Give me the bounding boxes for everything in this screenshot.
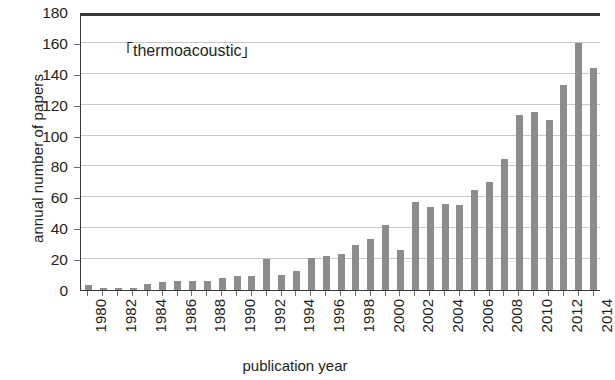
x-tick-mark xyxy=(593,291,594,296)
bar xyxy=(174,281,181,290)
x-tick-mark xyxy=(444,291,445,296)
bar xyxy=(531,112,538,290)
x-tick-mark xyxy=(489,291,490,296)
x-tick-mark xyxy=(206,291,207,296)
x-tick-mark xyxy=(295,291,296,296)
bar xyxy=(575,43,582,290)
bar xyxy=(456,205,463,290)
y-tick-label: 160 xyxy=(42,36,68,52)
x-tick-label: 1986 xyxy=(183,299,198,332)
bar xyxy=(442,204,449,290)
x-tick-mark xyxy=(325,291,326,296)
x-tick-label: 2002 xyxy=(420,299,435,332)
x-tick-mark xyxy=(162,291,163,296)
x-tick-label: 2008 xyxy=(509,299,524,332)
bar xyxy=(204,281,211,290)
x-tick-mark xyxy=(370,291,371,296)
x-tick-mark xyxy=(518,291,519,296)
y-tick-label: 140 xyxy=(42,67,68,83)
y-tick-label: 120 xyxy=(42,98,68,114)
bar xyxy=(427,207,434,290)
x-tick-mark xyxy=(578,291,579,296)
x-tick-label: 1998 xyxy=(361,299,376,332)
bar xyxy=(338,254,345,290)
bar xyxy=(248,276,255,290)
bar xyxy=(471,190,478,290)
x-tick-mark xyxy=(459,291,460,296)
y-tick-label: 0 xyxy=(59,283,68,299)
y-tick-label: 20 xyxy=(51,252,68,268)
x-tick-mark xyxy=(102,291,103,296)
bar xyxy=(263,259,270,290)
bar xyxy=(590,68,597,290)
x-tick-mark xyxy=(503,291,504,296)
plot-area: 「thermoacoustic」 xyxy=(80,13,600,291)
x-tick-label: 2014 xyxy=(599,299,614,332)
x-axis-title: publication year xyxy=(0,357,590,374)
y-tick-label: 80 xyxy=(51,160,68,176)
y-tick-label: 40 xyxy=(51,221,68,237)
y-tick-label: 100 xyxy=(42,129,68,145)
x-tick-mark xyxy=(177,291,178,296)
x-tick-label: 2004 xyxy=(450,299,465,332)
bar xyxy=(85,285,92,290)
x-tick-mark xyxy=(429,291,430,296)
x-tick-mark xyxy=(533,291,534,296)
x-tick-label: 1996 xyxy=(331,299,346,332)
x-tick-mark xyxy=(563,291,564,296)
bar xyxy=(501,159,508,290)
series-annotation: 「thermoacoustic」 xyxy=(117,37,258,61)
x-tick-label: 1984 xyxy=(153,299,168,332)
x-tick-label: 2006 xyxy=(480,299,495,332)
x-tick-mark xyxy=(87,291,88,296)
x-tick-mark xyxy=(236,291,237,296)
bar xyxy=(115,288,122,290)
x-tick-label: 1994 xyxy=(301,299,316,332)
x-tick-mark xyxy=(251,291,252,296)
bar xyxy=(546,120,553,290)
bar xyxy=(382,225,389,290)
bar xyxy=(293,271,300,290)
bar xyxy=(144,284,151,290)
x-tick-mark xyxy=(147,291,148,296)
x-tick-label: 1980 xyxy=(93,299,108,332)
x-tick-mark xyxy=(340,291,341,296)
bar xyxy=(352,245,359,290)
x-tick-label: 1990 xyxy=(242,299,257,332)
bar xyxy=(159,282,166,290)
x-tick-mark xyxy=(385,291,386,296)
bar xyxy=(308,258,315,290)
x-tick-label: 2000 xyxy=(391,299,406,332)
x-axis-tick-labels: 1980198219841986198819901992199419961998… xyxy=(80,299,600,351)
x-tick-mark xyxy=(266,291,267,296)
bar xyxy=(560,85,567,290)
bar xyxy=(323,256,330,290)
x-axis-tick-marks xyxy=(80,291,600,299)
bar xyxy=(100,288,107,290)
bar xyxy=(130,288,137,290)
bar xyxy=(516,115,523,290)
x-tick-mark xyxy=(355,291,356,296)
bar xyxy=(219,278,226,290)
x-tick-mark xyxy=(399,291,400,296)
bar xyxy=(234,276,241,290)
x-tick-label: 2012 xyxy=(569,299,584,332)
bar xyxy=(486,182,493,290)
x-tick-mark xyxy=(548,291,549,296)
x-tick-mark xyxy=(281,291,282,296)
x-tick-label: 1982 xyxy=(123,299,138,332)
bar xyxy=(412,202,419,290)
x-tick-label: 2010 xyxy=(539,299,554,332)
y-axis-ticks: 020406080100120140160180 xyxy=(0,0,80,380)
bar xyxy=(189,281,196,290)
y-tick-label: 180 xyxy=(42,5,68,21)
x-tick-mark xyxy=(474,291,475,296)
x-tick-label: 1988 xyxy=(212,299,227,332)
y-tick-label: 60 xyxy=(51,191,68,207)
bar xyxy=(367,239,374,290)
x-tick-mark xyxy=(191,291,192,296)
x-tick-mark xyxy=(414,291,415,296)
bar xyxy=(278,275,285,290)
bar xyxy=(397,250,404,290)
